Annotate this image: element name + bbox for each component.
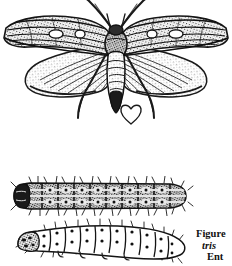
larva-light-illustration xyxy=(4,218,196,266)
reniform-spot xyxy=(75,30,85,38)
orbicular-spot xyxy=(169,30,183,38)
abdomen xyxy=(107,52,125,114)
adult-moth-specimen xyxy=(0,0,232,136)
left-forewing xyxy=(4,16,114,56)
reniform-spot xyxy=(147,30,157,38)
heart-shaped-mark xyxy=(121,105,141,124)
larva-head xyxy=(18,232,39,251)
larva-head xyxy=(14,184,30,208)
moth-illustration xyxy=(0,0,232,136)
figure-plate: Figure tris Ent xyxy=(0,0,232,266)
figure-caption: Figure tris Ent xyxy=(196,228,232,263)
right-forewing xyxy=(118,16,228,56)
head xyxy=(109,25,123,35)
anal-tuft xyxy=(110,91,122,113)
larva-dark-illustration xyxy=(2,176,194,216)
larva-dark-form xyxy=(2,176,194,216)
caption-line-2: tris xyxy=(196,240,232,252)
orbicular-spot xyxy=(49,30,63,38)
caption-line-1: Figure xyxy=(196,228,232,240)
caption-line-3: Ent xyxy=(196,251,232,263)
larva-light-form xyxy=(4,218,196,266)
